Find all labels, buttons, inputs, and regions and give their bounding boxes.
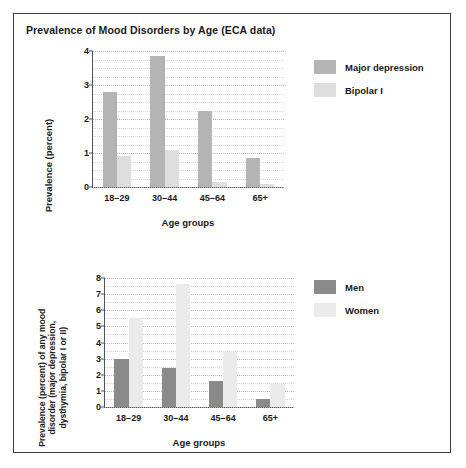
gridline [93,119,284,120]
bar-women-3 [270,384,284,407]
figure-frame: Prevalence of Mood Disorders by Age (ECA… [13,13,451,453]
y-axis-label-line-1: Prevalence (percent) of any mood [37,309,47,447]
gridline [93,68,284,69]
legend-swatch [314,303,336,317]
y-axis-tick-mark [101,310,105,311]
y-axis-tick-mark [101,294,105,295]
x-axis-tick-label: 30–44 [152,193,177,203]
x-axis-tick-label: 65+ [263,413,278,423]
legend-item: Major depression [314,60,424,74]
y-axis-label-line-2: disorder (major depression, [48,321,58,435]
gridline [105,302,294,303]
y-axis-tick-mark [101,342,105,343]
y-axis-tick-mark [89,187,93,188]
gridline [93,102,284,103]
figure-title: Prevalence of Mood Disorders by Age (ECA… [26,24,275,36]
bar-men-0 [114,359,128,407]
bar-major-depression-1 [150,56,164,187]
x-axis-tick-label: 18–29 [104,193,129,203]
plot-area-bottom: 01234567818–2930–4445–6465+ [104,278,294,408]
gridline [93,60,284,61]
legend-bottom: MenWomen [314,280,379,326]
bar-bipolar-i-1 [165,150,179,187]
y-axis-tick-mark [101,374,105,375]
legend-label: Women [345,305,379,316]
gridline [105,278,294,279]
bar-bipolar-i-3 [260,184,274,187]
x-axis-label-bottom: Age groups [104,437,294,448]
bar-women-2 [223,352,237,407]
bar-women-1 [176,284,190,407]
gridline [93,145,284,146]
y-axis-tick-mark [101,326,105,327]
y-axis-tick-mark [101,390,105,391]
y-axis-label-top: Prevalence (percent) [43,96,54,236]
chart-panel-top: Prevalence (percent) 0123418–2930–4445–6… [14,42,452,252]
y-axis-label-line-3: dysthymia, bipolar I or II) [58,327,68,429]
legend-label: Major depression [345,62,424,73]
x-axis-label-top: Age groups [92,217,284,228]
legend-item: Men [314,280,379,294]
gridline [105,294,294,295]
x-axis-tick-label: 45–64 [211,413,236,423]
gridline [93,77,284,78]
bar-major-depression-2 [198,111,212,188]
legend-swatch [314,83,336,97]
gridline [105,310,294,311]
y-axis-tick-mark [89,119,93,120]
gridline [93,187,284,188]
gridline [105,407,294,408]
gridline [93,85,284,86]
y-axis-tick-mark [101,278,105,279]
gridline [93,128,284,129]
bar-bipolar-i-2 [212,182,226,187]
y-axis-tick-mark [89,85,93,86]
bar-major-depression-0 [103,92,117,187]
gridline [93,51,284,52]
legend-item: Women [314,303,379,317]
y-axis-label-bottom: Prevalence (percent) of any mood disorde… [37,303,68,453]
chart-panel-bottom: Prevalence (percent) of any mood disorde… [14,264,452,454]
x-axis-tick-label: 18–29 [116,413,141,423]
bar-women-0 [129,318,143,407]
y-axis-tick-mark [89,153,93,154]
gridline [93,136,284,137]
y-axis-tick-mark [101,358,105,359]
y-axis-tick-mark [101,407,105,408]
gridline [93,94,284,95]
legend-label: Bipolar I [345,85,383,96]
bar-men-2 [209,381,223,407]
gridline [105,286,294,287]
legend-swatch [314,280,336,294]
x-axis-tick-label: 45–64 [200,193,225,203]
bar-major-depression-3 [246,158,260,187]
legend-top: Major depressionBipolar I [314,60,424,106]
legend-item: Bipolar I [314,83,424,97]
legend-swatch [314,60,336,74]
legend-label: Men [345,282,364,293]
plot-area-top: 0123418–2930–4445–6465+ [92,51,284,188]
gridline [93,111,284,112]
bar-men-1 [162,368,176,407]
x-axis-tick-label: 30–44 [163,413,188,423]
gridline [93,153,284,154]
y-axis-tick-mark [89,51,93,52]
bar-bipolar-i-0 [117,156,131,187]
x-axis-tick-label: 65+ [252,193,267,203]
bar-men-3 [256,399,270,407]
